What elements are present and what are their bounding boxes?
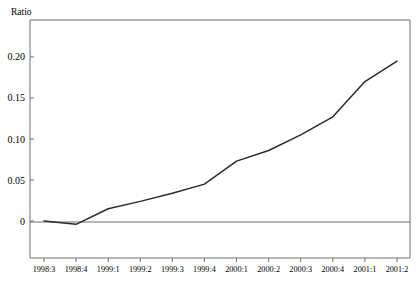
x-tick-label: 1998:3 — [33, 265, 56, 274]
x-tick-label: 2001:1 — [354, 265, 377, 274]
x-tick-label: 1998:4 — [65, 265, 88, 274]
x-tick-label: 2001:2 — [386, 265, 409, 274]
x-tick-label: 2000:1 — [225, 265, 248, 274]
chart-container: Ratio 0.200.150.100.050 1998:31998:41999… — [0, 0, 419, 282]
ratio-line-chart: Ratio 0.200.150.100.050 1998:31998:41999… — [0, 0, 419, 282]
x-tick-label: 2000:4 — [321, 265, 344, 274]
x-tick-label: 1999:4 — [193, 265, 216, 274]
x-tick-label: 2000:2 — [257, 265, 280, 274]
ratio-data-line — [44, 61, 397, 224]
y-tick-label: 0.10 — [8, 134, 26, 145]
x-tick-label: 1999:2 — [129, 265, 152, 274]
x-tick-label: 1999:3 — [161, 265, 184, 274]
x-axis-ticks: 1998:31998:41999:11999:21999:31999:42000… — [33, 258, 409, 274]
x-tick-label: 2000:3 — [289, 265, 312, 274]
x-tick-label: 1999:1 — [97, 265, 120, 274]
y-tick-label: 0.15 — [8, 92, 26, 103]
y-tick-label: 0.20 — [8, 51, 26, 62]
y-tick-label: 0 — [20, 216, 25, 227]
y-axis-title: Ratio — [11, 7, 32, 17]
y-tick-label: 0.05 — [8, 175, 26, 186]
